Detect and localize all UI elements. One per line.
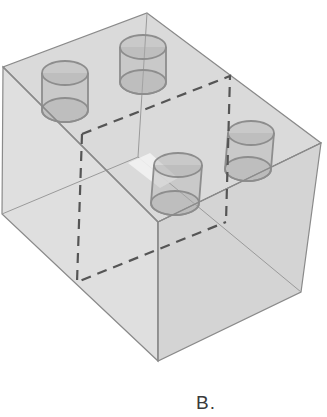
box-diagram <box>0 0 327 417</box>
cylinder-3 <box>151 153 202 215</box>
option-label: B. <box>0 392 327 414</box>
cylinder-4 <box>225 121 274 181</box>
cylinder-2 <box>120 35 166 94</box>
